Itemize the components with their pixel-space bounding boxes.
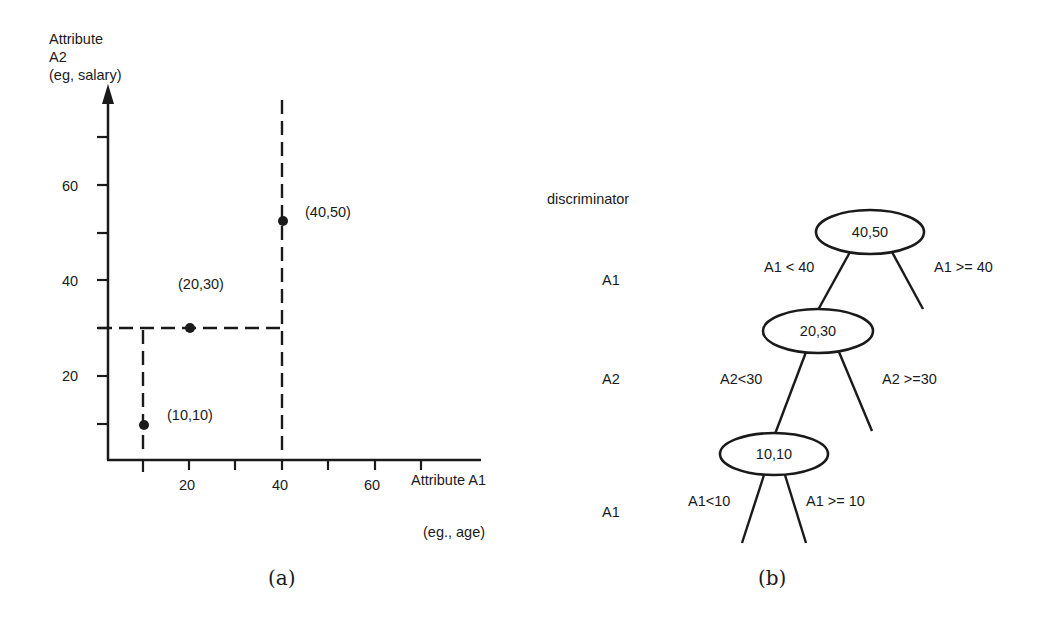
y-axis-ticks: [97, 137, 108, 424]
panel-b-caption: (b): [758, 566, 786, 590]
x-tick-label-40: 40: [272, 477, 288, 493]
point-label-10-10: (10,10): [167, 407, 213, 423]
discriminator-level-3: A1: [602, 504, 620, 520]
x-tick-label-20: 20: [179, 477, 195, 493]
y-axis-label-line-2: A2: [49, 49, 67, 65]
point-label-20-30: (20,30): [178, 276, 224, 292]
x-tick-label-60: 60: [364, 477, 380, 493]
x-axis-ticks: [143, 460, 421, 472]
edge-root-left: [818, 252, 850, 310]
data-point-20-30: [185, 323, 195, 333]
tree-node-20-30: 20,30: [763, 309, 873, 353]
discriminator-header: discriminator: [547, 191, 629, 207]
x-axis-sublabel: (eg., age): [423, 524, 485, 540]
tree-node-10-10: 10,10: [720, 433, 828, 475]
discriminator-level-2: A2: [602, 371, 620, 387]
panel-a-caption: (a): [268, 566, 296, 590]
edge-label-a1-ge-40: A1 >= 40: [934, 259, 993, 275]
edge-label-a1-lt-10: A1<10: [688, 493, 730, 509]
edge-root-right: [892, 252, 923, 309]
point-label-40-50: (40,50): [305, 204, 351, 220]
kd-tree-figure: Attribute A2 (eg, salary) 20 40 60: [0, 0, 1054, 629]
edge-label-a1-lt-40: A1 < 40: [764, 259, 814, 275]
edge-leaf-right: [785, 475, 806, 543]
y-axis-arrow-icon: [102, 84, 114, 104]
y-axis-label-line-1: Attribute: [49, 31, 103, 47]
edge-label-a1-ge-10: A1 >= 10: [806, 493, 865, 509]
y-tick-label-60: 60: [62, 178, 78, 194]
x-axis-label: Attribute A1: [411, 472, 486, 488]
discriminator-level-1: A1: [602, 272, 620, 288]
edge-mid-left: [775, 352, 806, 434]
edge-leaf-left: [742, 475, 764, 543]
panel-a-scatter: Attribute A2 (eg, salary) 20 40 60: [49, 31, 486, 590]
y-axis-label-line-3: (eg, salary): [49, 67, 122, 83]
y-tick-label-40: 40: [62, 273, 78, 289]
tree-node-40-50: 40,50: [816, 210, 924, 254]
edge-label-a2-ge-30: A2 >=30: [882, 371, 937, 387]
node-label-20-30: 20,30: [800, 323, 836, 339]
data-point-10-10: [139, 420, 149, 430]
edge-label-a2-lt-30: A2<30: [720, 371, 762, 387]
node-label-40-50: 40,50: [852, 224, 888, 240]
data-point-40-50: [278, 216, 288, 226]
panel-b-kd-tree: discriminator A1 A2 A1 40,50 20,30 10,10…: [547, 191, 993, 590]
edge-mid-right: [839, 352, 872, 431]
node-label-10-10: 10,10: [756, 446, 792, 462]
y-tick-label-20: 20: [62, 368, 78, 384]
